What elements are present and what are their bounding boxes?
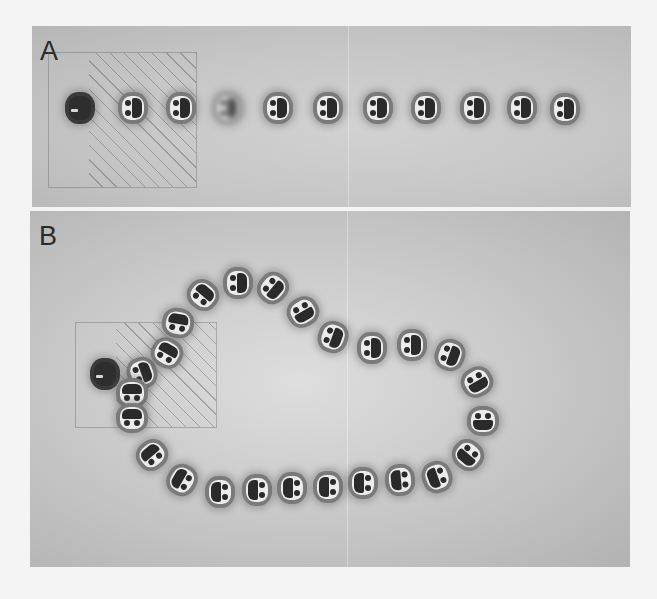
robot-face: [170, 96, 192, 120]
robot-marker-bar: [377, 98, 387, 118]
robot-face: [319, 322, 348, 352]
robot-marker-dot: [134, 420, 140, 426]
robot-marker-dot: [557, 101, 563, 107]
robot-marker-dot: [320, 100, 326, 106]
robot-marker-bar: [227, 98, 237, 118]
robot-face: [287, 296, 319, 327]
robot-marker-dot: [404, 347, 410, 353]
robot-face: [352, 471, 374, 495]
robot: [116, 403, 148, 433]
robot-marker-dot: [467, 100, 473, 106]
robot: [411, 92, 441, 124]
robot-marker-dot: [179, 325, 186, 332]
robot: [417, 457, 456, 497]
robot: [263, 92, 293, 124]
robot: [550, 93, 580, 125]
robot-marker-bar: [371, 338, 381, 358]
robot-marker-dot: [365, 485, 371, 491]
robot-marker-bar: [474, 98, 484, 118]
robot: [446, 433, 490, 477]
robot-marker-bar: [277, 98, 287, 118]
robot-face: [136, 439, 169, 471]
robot-marker-dot: [220, 110, 226, 116]
robot-face: [209, 480, 231, 504]
robot-marker-dot: [173, 100, 179, 106]
robot-face: [281, 476, 303, 500]
robot-face: [122, 96, 144, 120]
robot-marker-dot: [401, 471, 408, 478]
robot-face: [69, 96, 91, 120]
robot: [384, 463, 417, 497]
robot-face: [464, 96, 486, 120]
robot-marker-bar: [473, 420, 493, 430]
robot-face: [164, 310, 191, 336]
robot-face: [217, 96, 239, 120]
robot: [161, 459, 203, 502]
robot-marker-dot: [418, 110, 424, 116]
robot: [166, 92, 196, 124]
robot-marker-bar: [283, 478, 293, 498]
robot-face: [423, 462, 452, 492]
robot-marker-bar: [411, 335, 421, 355]
image-seam: [347, 211, 348, 567]
robot-marker-dot: [222, 484, 228, 490]
robot-marker-bar: [521, 98, 531, 118]
robot-marker-dot: [514, 110, 520, 116]
robot-marker-dot: [436, 467, 444, 475]
robot-marker-dot: [330, 479, 336, 485]
robot-marker-dot: [169, 324, 176, 331]
robot: [313, 92, 343, 124]
robot-marker-bar: [266, 280, 287, 302]
robot-marker-dot: [125, 110, 131, 116]
robot-marker-bar: [237, 273, 247, 293]
robot-marker-bar: [195, 282, 217, 303]
robot-face: [461, 366, 493, 397]
seed-robot: [90, 358, 120, 390]
robot: [118, 92, 148, 124]
robot-face: [554, 97, 576, 121]
robot-face: [227, 271, 249, 295]
robot-marker-dot: [475, 413, 481, 419]
robot-face: [120, 407, 144, 429]
robot-marker-dot: [222, 494, 228, 500]
robot-marker-dot: [440, 476, 448, 484]
robot: [507, 92, 537, 124]
robot: [348, 467, 378, 499]
robot-marker-dot: [259, 482, 265, 488]
robot: [223, 267, 253, 299]
robot-marker-dot: [370, 110, 376, 116]
robot-face: [166, 464, 197, 496]
robot-marker-dot: [124, 395, 130, 401]
robot: [282, 291, 325, 333]
robot-face: [120, 382, 144, 404]
panel-label-b: B: [39, 223, 57, 250]
robot-marker-bar: [180, 98, 190, 118]
robot-face: [401, 333, 423, 357]
robot: [277, 472, 307, 504]
robot-marker-bar: [211, 482, 221, 502]
robot-marker-dot: [96, 375, 103, 378]
robot-marker-bar: [122, 384, 142, 394]
robot-marker-dot: [294, 490, 300, 496]
robot: [456, 361, 499, 403]
robot-marker-dot: [270, 100, 276, 106]
robot-face: [187, 279, 220, 311]
robot-face: [257, 272, 289, 305]
robot-marker-dot: [330, 489, 336, 495]
robot-face: [511, 96, 533, 120]
robot-face: [317, 475, 339, 499]
robot-marker-dot: [259, 492, 265, 498]
robot-marker-dot: [370, 100, 376, 106]
panel-a-photo: A: [32, 26, 631, 207]
robot: [430, 335, 469, 375]
robot-marker-dot: [365, 475, 371, 481]
robot-marker-dot: [364, 350, 370, 356]
robot: [467, 406, 499, 436]
robot-face: [388, 467, 412, 493]
robot-face: [151, 337, 183, 368]
robot-marker-bar: [425, 98, 435, 118]
robot-marker-dot: [404, 337, 410, 343]
robot-marker-bar: [390, 470, 402, 491]
robot: [397, 329, 427, 361]
robot-face: [361, 336, 383, 360]
